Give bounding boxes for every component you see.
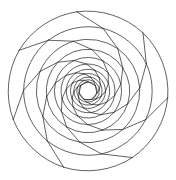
radial-spoke	[78, 93, 79, 97]
whirling-spiral-figure	[0, 0, 176, 180]
